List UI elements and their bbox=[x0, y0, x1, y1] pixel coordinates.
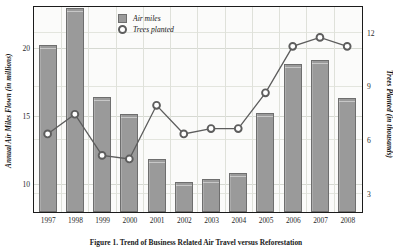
x-tick-label: 2008 bbox=[333, 216, 363, 225]
legend-circle-icon bbox=[118, 25, 127, 34]
line-path bbox=[48, 37, 348, 159]
legend-item-air-miles: Air miles bbox=[118, 13, 174, 24]
y-axis-left-title: Annual Air Miles Flown (in millions) bbox=[5, 56, 13, 168]
legend-swatch-icon bbox=[118, 14, 127, 23]
y-tick-label-right: 12 bbox=[367, 29, 385, 38]
chart-legend: Air miles Trees planted bbox=[118, 13, 174, 35]
line-marker bbox=[44, 131, 51, 138]
line-marker bbox=[317, 34, 324, 41]
x-tick-label: 1998 bbox=[60, 216, 90, 225]
x-tick-label: 2002 bbox=[169, 216, 199, 225]
y-tick-label-left: 20 bbox=[14, 44, 30, 53]
legend-label-trees-planted: Trees planted bbox=[133, 24, 174, 35]
line-marker bbox=[235, 125, 242, 132]
legend-label-air-miles: Air miles bbox=[133, 13, 161, 24]
x-tick-label: 1997 bbox=[33, 216, 63, 225]
x-tick-label: 2005 bbox=[251, 216, 281, 225]
line-marker bbox=[153, 102, 160, 109]
line-marker bbox=[180, 131, 187, 138]
y-tick-label-right: 3 bbox=[367, 190, 385, 199]
y-tick-label-left: 15 bbox=[14, 112, 30, 121]
figure-caption: Figure 1. Trend of Business Related Air … bbox=[0, 238, 392, 247]
x-tick-label: 2007 bbox=[306, 216, 336, 225]
plot-area bbox=[33, 6, 363, 213]
y-tick-label-right: 9 bbox=[367, 82, 385, 91]
line-marker bbox=[208, 125, 215, 132]
y-tick-label-right: 6 bbox=[367, 136, 385, 145]
x-tick-label: 2003 bbox=[197, 216, 227, 225]
line-marker bbox=[262, 89, 269, 96]
y-axis-right-title: Trees Planted (in thousands) bbox=[385, 58, 393, 170]
x-tick-label: 1999 bbox=[88, 216, 118, 225]
y-tick-label-left: 10 bbox=[14, 180, 30, 189]
line-series-trees-planted bbox=[34, 7, 362, 212]
x-tick-label: 2006 bbox=[278, 216, 308, 225]
line-marker bbox=[71, 111, 78, 118]
line-marker bbox=[99, 152, 106, 159]
x-tick-label: 2000 bbox=[115, 216, 145, 225]
legend-item-trees-planted: Trees planted bbox=[118, 24, 174, 35]
line-marker bbox=[289, 43, 296, 50]
line-marker bbox=[344, 43, 351, 50]
x-tick-label: 2001 bbox=[142, 216, 172, 225]
x-tick-label: 2004 bbox=[224, 216, 254, 225]
line-marker bbox=[126, 156, 133, 163]
